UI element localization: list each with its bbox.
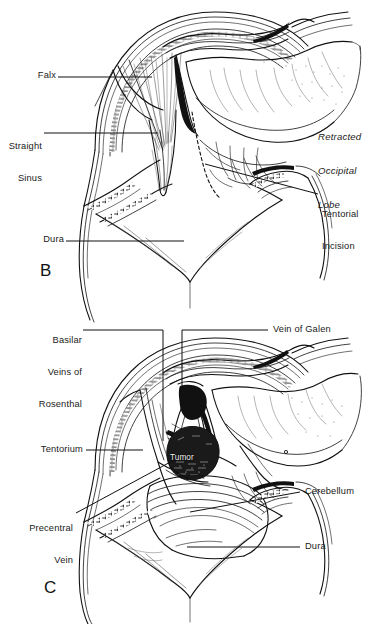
figure-root: .s{fill:none;stroke:#111;stroke-linecap:… <box>0 0 376 624</box>
label-tentorium[interactable]: Tentorium <box>0 444 83 455</box>
dura-flap-b <box>79 156 332 322</box>
label-dura-c[interactable]: Dura <box>305 541 365 552</box>
label-retracted-line2: Occipital <box>318 165 376 176</box>
tentorial-incision-dashed-line <box>192 112 220 198</box>
label-tentorial-line2: Incision <box>322 241 376 252</box>
panel-letter-c: C <box>44 578 56 598</box>
label-dura-b[interactable]: Dura <box>2 234 64 245</box>
panel-letter-b: B <box>40 261 51 281</box>
label-cerebellum[interactable]: Cerebellum <box>305 486 375 497</box>
deep-structures-b <box>200 140 286 187</box>
label-basilar-veins-of-rosenthal[interactable]: Basilar Veins of Rosenthal <box>0 314 82 431</box>
label-precentral-vein[interactable]: Precentral Vein <box>0 502 73 587</box>
label-falx[interactable]: Falx <box>2 70 56 81</box>
label-tentorial-line1: Tentorial <box>322 209 376 220</box>
label-vein-of-galen[interactable]: Vein of Galen <box>273 324 373 335</box>
label-precentral-line2: Vein <box>0 555 73 566</box>
label-straight-sinus-line2: Sinus <box>2 173 42 184</box>
label-straight-sinus[interactable]: Straight Sinus <box>2 120 42 205</box>
label-tentorial-incision[interactable]: Tentorial Incision <box>322 188 376 273</box>
label-basilar-line3: Rosenthal <box>0 399 82 410</box>
label-precentral-line1: Precentral <box>0 523 73 534</box>
dura-flap-c <box>79 472 332 624</box>
label-basilar-line1: Basilar <box>0 335 82 346</box>
label-basilar-line2: Veins of <box>0 367 82 378</box>
label-retracted-line1: Retracted <box>318 131 376 142</box>
label-tumor[interactable]: Tumor <box>170 453 194 462</box>
label-straight-sinus-line1: Straight <box>2 141 42 152</box>
